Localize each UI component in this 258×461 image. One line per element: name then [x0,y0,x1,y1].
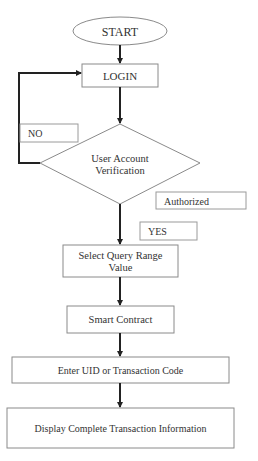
verify-label-line2: Verification [95,165,145,176]
no-label: NO [28,128,42,139]
no-label-box: NO [20,124,78,142]
login-label: LOGIN [103,70,137,82]
yes-label-box: YES [140,222,197,240]
start-label: START [102,25,139,39]
start-node: START [73,17,167,45]
smart-contract-node: Smart Contract [67,306,174,333]
display-label: Display Complete Transaction Information [35,423,207,434]
display-info-node: Display Complete Transaction Information [7,408,234,448]
login-node: LOGIN [82,64,158,87]
select-label-line2: Value [109,262,133,273]
yes-label: YES [148,226,167,237]
select-label-line1: Select Query Range [79,250,163,261]
authorized-label: Authorized [164,196,209,207]
verify-label-line1: User Account [91,153,149,164]
enter-label: Enter UID or Transaction Code [58,365,184,376]
enter-uid-node: Enter UID or Transaction Code [12,357,229,383]
select-query-node: Select Query Range Value [63,245,178,277]
flowchart-canvas: START LOGIN NO User Account Verification… [0,0,258,461]
authorized-label-box: Authorized [156,192,246,209]
contract-label: Smart Contract [89,314,153,325]
